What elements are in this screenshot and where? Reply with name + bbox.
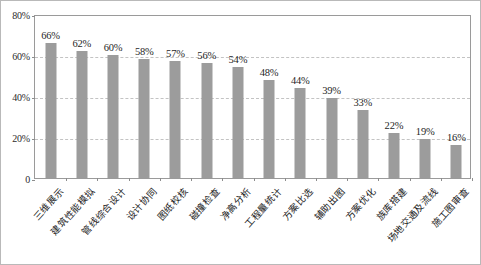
bar-group: 57% [160,16,191,178]
bar [264,80,275,178]
bar-value-label: 33% [353,97,372,108]
bar-value-label: 16% [447,132,466,143]
bar-group: 44% [285,16,316,178]
bar-value-label: 60% [104,42,123,53]
bar-chart-figure: 020%40%60%80% 66%62%60%58%57%56%54%48%44… [0,0,481,265]
x-axis: 三维展示建筑性能模拟管线综合设计设计协同图纸校核碰撞检查净高分析工程量统计方案比… [34,179,471,265]
bar [170,61,181,178]
bar-group: 48% [254,16,285,178]
x-axis-tick-mark [472,178,473,181]
bar-value-label: 39% [322,85,341,96]
y-axis-tick-label: 80% [12,10,30,21]
bar-value-label: 66% [41,30,60,41]
bar-value-label: 44% [291,75,310,86]
bar-group: 16% [441,16,472,178]
bar [357,110,368,178]
bar-group: 22% [378,16,409,178]
bar-group: 66% [35,16,66,178]
bar [295,88,306,178]
bar-group: 60% [97,16,128,178]
plot-area: 66%62%60%58%57%56%54%48%44%39%33%22%19%1… [34,15,471,179]
bar-value-label: 62% [72,38,91,49]
bar-group: 58% [129,16,160,178]
y-axis-tick-label: 20% [12,133,30,144]
bar [76,51,87,178]
bar-value-label: 22% [385,120,404,131]
y-axis-tick-label: 0 [25,174,30,185]
bar-value-label: 58% [135,46,154,57]
bar-value-label: 19% [416,126,435,137]
bar [232,67,243,178]
y-axis-tick-label: 60% [12,51,30,62]
bar-group: 39% [316,16,347,178]
bar [451,145,462,178]
bar-value-label: 48% [260,67,279,78]
bar [45,43,56,178]
bar [388,133,399,178]
y-axis-tick-label: 40% [12,92,30,103]
y-axis: 020%40%60%80% [1,1,34,201]
bar-group: 54% [222,16,253,178]
bar [201,63,212,178]
bar-group: 62% [66,16,97,178]
bars-layer: 66%62%60%58%57%56%54%48%44%39%33%22%19%1… [35,16,470,178]
bar-group: 33% [347,16,378,178]
bar [326,98,337,178]
bar [139,59,150,178]
bar [420,139,431,178]
bar-group: 19% [410,16,441,178]
bar-value-label: 54% [229,54,248,65]
bar [108,55,119,178]
bar-value-label: 56% [197,50,216,61]
bar-group: 56% [191,16,222,178]
bar-value-label: 57% [166,48,185,59]
